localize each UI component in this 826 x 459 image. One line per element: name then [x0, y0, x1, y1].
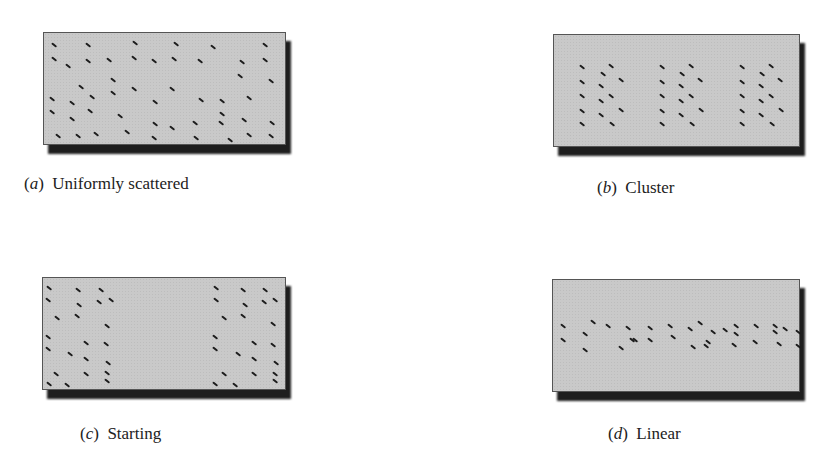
dash-mark [53, 371, 59, 377]
dash-mark [78, 84, 84, 90]
dash-mark [647, 325, 653, 331]
dash-mark [212, 334, 218, 340]
dash-mark [678, 83, 684, 89]
dash-mark [609, 121, 615, 127]
dash-mark [169, 125, 175, 131]
dash-mark [210, 44, 216, 50]
dash-mark [104, 378, 110, 384]
dash-mark [605, 323, 611, 329]
dash-mark [46, 381, 52, 387]
dash-mark [55, 133, 61, 139]
dash-mark [579, 64, 585, 70]
dash-mark [272, 371, 278, 377]
dash-mark [733, 323, 739, 329]
dash-mark [758, 83, 764, 89]
dash-mark [697, 77, 703, 83]
dash-mark [582, 347, 588, 353]
panel-letter: b [603, 178, 612, 197]
dash-mark [608, 93, 614, 99]
dash-mark [232, 382, 238, 388]
dash-mark [690, 344, 696, 350]
dash-mark [659, 93, 665, 99]
dash-mark [83, 356, 89, 362]
dash-mark [579, 108, 585, 114]
dash-mark [739, 93, 745, 99]
dash-mark [772, 323, 778, 329]
dash-mark [262, 42, 268, 48]
panel-caption: (b) Cluster [597, 178, 674, 198]
dash-mark [110, 77, 116, 83]
dash-mark [689, 121, 695, 127]
dash-mark [75, 287, 81, 293]
dash-mark [679, 71, 685, 77]
dash-mark [772, 329, 778, 335]
dash-mark [239, 59, 245, 65]
dash-mark [600, 71, 606, 77]
dash-mark [124, 129, 130, 135]
dash-mark [117, 113, 123, 119]
scatter-box-c [42, 277, 286, 390]
dash-mark [45, 297, 51, 303]
dash-mark [261, 299, 267, 305]
dash-mark [618, 345, 624, 351]
dash-mark [778, 107, 784, 113]
dash-mark [703, 343, 709, 349]
dash-mark [93, 131, 99, 137]
dash-mark [268, 78, 274, 84]
dash-mark [272, 378, 278, 384]
dash-mark [45, 346, 51, 352]
dash-mark [96, 299, 102, 305]
dash-mark [739, 79, 745, 85]
dash-mark [272, 297, 278, 303]
panel-label: Starting [107, 424, 161, 443]
dash-mark [598, 83, 604, 89]
dash-mark [197, 58, 203, 64]
dash-mark [173, 41, 179, 47]
dash-mark [218, 120, 224, 126]
dash-mark [105, 360, 111, 366]
panel-letter: a [30, 174, 39, 193]
dash-mark [251, 340, 257, 346]
dash-mark [251, 356, 257, 362]
dash-mark [212, 381, 218, 387]
dash-mark [151, 135, 157, 141]
dash-mark [697, 320, 703, 326]
dash-mark [739, 64, 745, 70]
dash-mark [688, 93, 694, 99]
dash-mark [110, 90, 116, 96]
dash-mark [579, 79, 585, 85]
dash-mark [87, 108, 93, 114]
dash-mark [104, 323, 110, 329]
dash-mark [618, 77, 624, 83]
dash-mark [560, 337, 566, 343]
dash-mark [758, 112, 764, 118]
dash-mark [618, 107, 624, 113]
dash-mark [152, 121, 158, 127]
panel-label: Cluster [625, 178, 674, 197]
dash-mark [49, 109, 55, 115]
dash-mark [198, 97, 204, 103]
dash-mark [49, 96, 55, 102]
dash-mark [560, 323, 566, 329]
panel-caption: (d) Linear [608, 424, 681, 444]
scatter-box-a [43, 32, 286, 145]
dash-mark [268, 133, 274, 139]
dash-mark [722, 327, 728, 333]
dash-mark [64, 382, 70, 388]
dash-mark [221, 371, 227, 377]
dash-mark [687, 326, 693, 332]
dash-mark [768, 93, 774, 99]
dash-mark [98, 287, 104, 293]
scatter-box-d [552, 279, 800, 392]
dash-mark [85, 58, 91, 64]
dash-mark [235, 351, 241, 357]
dash-mark [240, 287, 246, 293]
panel-caption: (a) Uniformly scattered [24, 174, 189, 194]
dash-mark [51, 42, 57, 48]
dash-mark [739, 121, 745, 127]
dash-mark [106, 57, 112, 63]
dash-mark [242, 302, 248, 308]
dash-mark [152, 99, 158, 105]
dash-mark [171, 56, 177, 62]
dash-mark [678, 98, 684, 104]
